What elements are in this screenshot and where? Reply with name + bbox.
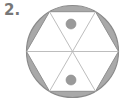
bottom-dot — [66, 75, 76, 85]
hexagon-in-circle-diagram — [0, 0, 127, 107]
top-dot — [66, 19, 76, 29]
